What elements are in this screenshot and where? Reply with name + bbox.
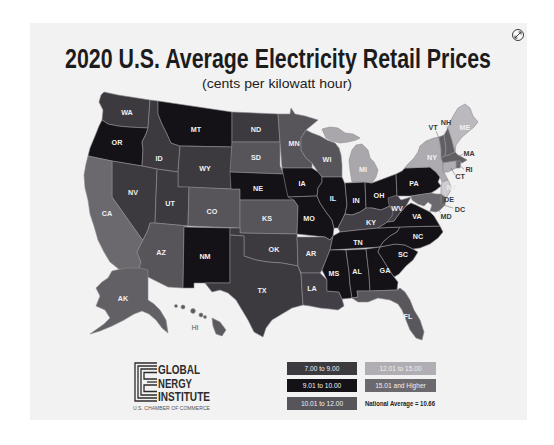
legend-label: 10.01 to 12.00: [301, 400, 343, 407]
state-label-pa: PA: [409, 179, 418, 188]
state-label-sc: SC: [398, 250, 408, 259]
state-ri: [456, 161, 461, 168]
state-label-nj: NJ: [446, 183, 455, 192]
state-label-ca: CA: [102, 209, 112, 218]
state-label-me: ME: [460, 123, 471, 132]
state-label-ny: NY: [427, 153, 437, 162]
state-label-fl: FL: [404, 312, 413, 321]
state-label-nd: ND: [251, 125, 261, 134]
legend-item-7-to-9: 7.00 to 9.00: [287, 362, 357, 375]
hi-island: [181, 305, 185, 309]
state-label-md: MD: [440, 212, 451, 221]
hi-island: [191, 309, 196, 314]
page-subtitle: (cents per kilowatt hour): [202, 76, 352, 91]
hi-island: [199, 313, 203, 317]
state-label-wy: WY: [199, 164, 211, 173]
state-label-hi: HI: [191, 323, 198, 332]
logo-line-global: GLOBAL: [158, 363, 200, 377]
legend-item-15-and-higher: 15.01 and Higher: [365, 379, 436, 392]
state-label-ct: CT: [455, 172, 465, 181]
state-label-vt: VT: [428, 123, 438, 132]
state-label-de: DE: [444, 195, 454, 204]
state-label-va: VA: [412, 212, 421, 221]
state-label-sd: SD: [251, 153, 261, 162]
state-label-ut: UT: [165, 199, 175, 208]
state-label-wi: WI: [323, 155, 332, 164]
state-label-ky: KY: [366, 218, 376, 227]
state-label-ak: AK: [118, 294, 129, 303]
state-label-ar: AR: [306, 249, 317, 258]
hi-island: [204, 316, 207, 319]
state-label-wv: WV: [391, 204, 403, 213]
state-label-dc: DC: [455, 205, 465, 214]
state-label-ma: MA: [463, 149, 474, 158]
state-label-mo: MO: [303, 214, 315, 223]
state-label-nv: NV: [128, 188, 138, 197]
state-label-ri: RI: [465, 165, 472, 174]
state-label-in: IN: [352, 196, 359, 205]
state-label-ok: OK: [269, 245, 281, 254]
state-label-tx: TX: [257, 286, 266, 295]
state-label-tn: TN: [353, 238, 363, 247]
expand-button[interactable]: [513, 30, 524, 41]
legend-item-10-to-12: 10.01 to 12.00: [287, 397, 357, 410]
page-title: 2020 U.S. Average Electricity Retail Pri…: [65, 44, 491, 74]
state-label-nm: NM: [199, 252, 210, 261]
state-label-mi: MI: [359, 165, 367, 174]
state-label-il: IL: [330, 194, 337, 203]
legend-item-9-to-10: 9.01 to 10.00: [287, 379, 357, 392]
state-label-ne: NE: [253, 184, 263, 193]
state-label-oh: OH: [374, 191, 385, 200]
hi-island: [175, 305, 178, 308]
state-label-mn: MN: [288, 139, 299, 148]
state-label-ms: MS: [329, 269, 340, 278]
logo-line-energy: NERGY: [158, 377, 193, 391]
state-label-nc: NC: [413, 232, 423, 241]
legend-label: 7.00 to 9.00: [305, 365, 340, 372]
state-label-or: OR: [112, 138, 124, 147]
logo-line-institute: INSTITUTE: [158, 390, 210, 404]
state-label-ks: KS: [262, 214, 272, 223]
infographic: 2020 U.S. Average Electricity Retail Pri…: [0, 0, 554, 445]
state-label-ga: GA: [380, 266, 391, 275]
logo-tagline: U.S. CHAMBER OF COMMERCE: [133, 406, 210, 411]
state-label-mt: MT: [191, 125, 202, 134]
state-label-la: LA: [307, 284, 317, 293]
state-label-ia: IA: [298, 179, 305, 188]
legend-label: 12.01 to 15.00: [379, 365, 421, 372]
state-label-wa: WA: [121, 108, 133, 117]
state-label-nh: NH: [441, 118, 451, 127]
national-average: National Average = 10.66: [365, 400, 435, 408]
state-label-id: ID: [155, 154, 162, 163]
legend-item-12-to-15: 12.01 to 15.00: [365, 362, 436, 375]
legend-label: 9.01 to 10.00: [303, 382, 342, 389]
legend-label: 15.01 and Higher: [375, 382, 426, 390]
state-label-az: AZ: [156, 248, 166, 257]
state-label-co: CO: [207, 207, 218, 216]
state-label-al: AL: [352, 267, 362, 276]
